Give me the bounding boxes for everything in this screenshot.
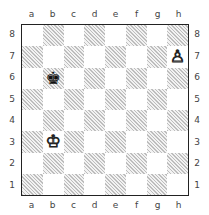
file-label-c-bottom: c	[63, 200, 84, 210]
file-label-d-top: d	[84, 9, 105, 19]
file-label-d-bottom: d	[84, 200, 105, 210]
square-b8	[43, 25, 64, 46]
square-h6	[167, 68, 188, 89]
square-d5	[84, 89, 105, 110]
rank-label-8-left: 8	[6, 24, 18, 45]
square-e1	[105, 174, 126, 195]
rank-label-5-right: 5	[191, 89, 203, 110]
rank-label-6-left: 6	[6, 67, 18, 88]
square-a2	[22, 153, 43, 174]
square-f2	[126, 153, 147, 174]
square-h7: ♙	[167, 46, 188, 67]
square-d6	[84, 68, 105, 89]
rank-label-4-right: 4	[191, 110, 203, 131]
square-b7	[43, 46, 64, 67]
square-a5	[22, 89, 43, 110]
rank-label-1-right: 1	[191, 175, 203, 196]
square-a4	[22, 110, 43, 131]
square-c6	[64, 68, 85, 89]
square-g2	[147, 153, 168, 174]
file-label-h-bottom: h	[168, 200, 189, 210]
square-b5	[43, 89, 64, 110]
file-label-a-bottom: a	[21, 200, 42, 210]
square-a8	[22, 25, 43, 46]
rank-label-7-left: 7	[6, 46, 18, 67]
square-b1	[43, 174, 64, 195]
square-g3	[147, 131, 168, 152]
square-b6: ♚	[43, 68, 64, 89]
file-label-e-top: e	[105, 9, 126, 19]
square-b3: ♔	[43, 131, 64, 152]
square-d3	[84, 131, 105, 152]
rank-label-1-left: 1	[6, 175, 18, 196]
square-e4	[105, 110, 126, 131]
square-e2	[105, 153, 126, 174]
square-f1	[126, 174, 147, 195]
square-h5	[167, 89, 188, 110]
square-e7	[105, 46, 126, 67]
square-a7	[22, 46, 43, 67]
rank-label-4-left: 4	[6, 110, 18, 131]
square-a1	[22, 174, 43, 195]
square-c4	[64, 110, 85, 131]
square-e5	[105, 89, 126, 110]
square-d1	[84, 174, 105, 195]
square-c7	[64, 46, 85, 67]
square-e3	[105, 131, 126, 152]
square-g7	[147, 46, 168, 67]
square-c1	[64, 174, 85, 195]
rank-label-7-right: 7	[191, 46, 203, 67]
rank-label-6-right: 6	[191, 67, 203, 88]
square-f7	[126, 46, 147, 67]
square-d2	[84, 153, 105, 174]
square-h3	[167, 131, 188, 152]
white-king-icon: ♔	[46, 133, 61, 150]
rank-label-3-right: 3	[191, 132, 203, 153]
square-e8	[105, 25, 126, 46]
rank-label-2-left: 2	[6, 153, 18, 174]
square-f5	[126, 89, 147, 110]
square-a3	[22, 131, 43, 152]
square-c3	[64, 131, 85, 152]
black-king-icon: ♚	[46, 70, 61, 87]
rank-label-8-right: 8	[191, 24, 203, 45]
white-pawn-icon: ♙	[170, 48, 185, 65]
file-label-b-top: b	[42, 9, 63, 19]
square-f8	[126, 25, 147, 46]
square-f6	[126, 68, 147, 89]
rank-label-3-left: 3	[6, 132, 18, 153]
chess-board: ♙♚♔	[21, 24, 189, 196]
file-label-a-top: a	[21, 9, 42, 19]
square-h8	[167, 25, 188, 46]
square-a6	[22, 68, 43, 89]
square-g1	[147, 174, 168, 195]
square-f3	[126, 131, 147, 152]
square-g4	[147, 110, 168, 131]
square-b2	[43, 153, 64, 174]
square-d4	[84, 110, 105, 131]
file-label-g-bottom: g	[147, 200, 168, 210]
square-c5	[64, 89, 85, 110]
square-h2	[167, 153, 188, 174]
square-c8	[64, 25, 85, 46]
file-label-f-bottom: f	[126, 200, 147, 210]
square-h1	[167, 174, 188, 195]
square-g6	[147, 68, 168, 89]
file-label-f-top: f	[126, 9, 147, 19]
rank-label-2-right: 2	[191, 153, 203, 174]
square-g8	[147, 25, 168, 46]
file-label-e-bottom: e	[105, 200, 126, 210]
file-label-c-top: c	[63, 9, 84, 19]
square-d8	[84, 25, 105, 46]
square-e6	[105, 68, 126, 89]
file-label-g-top: g	[147, 9, 168, 19]
square-f4	[126, 110, 147, 131]
square-b4	[43, 110, 64, 131]
rank-label-5-left: 5	[6, 89, 18, 110]
file-label-b-bottom: b	[42, 200, 63, 210]
square-c2	[64, 153, 85, 174]
file-label-h-top: h	[168, 9, 189, 19]
square-g5	[147, 89, 168, 110]
square-d7	[84, 46, 105, 67]
square-h4	[167, 110, 188, 131]
